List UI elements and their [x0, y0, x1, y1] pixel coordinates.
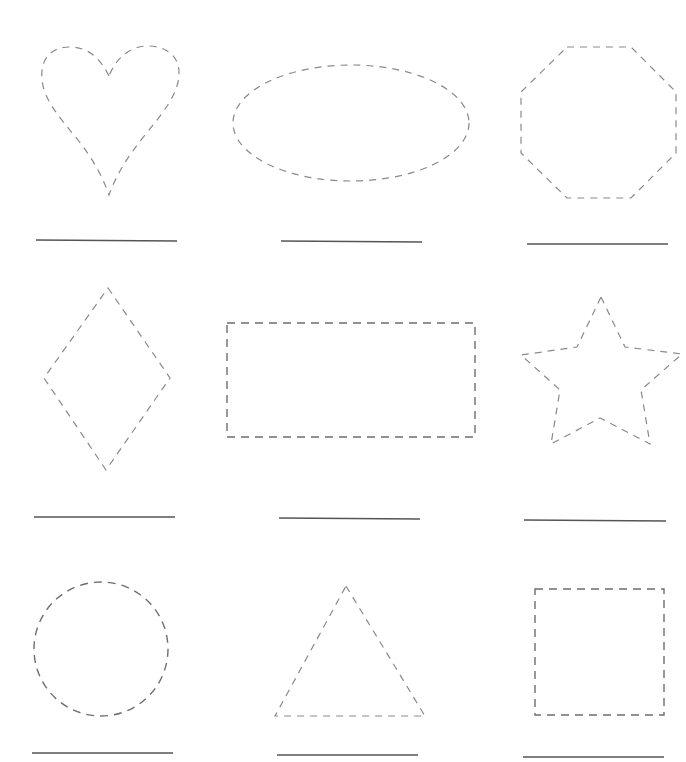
triangle-cell — [275, 586, 425, 755]
star-shape — [521, 297, 682, 444]
oval-answer-line[interactable] — [281, 241, 422, 242]
rectangle-cell — [227, 323, 475, 519]
heart-shape — [42, 46, 179, 195]
triangle-shape — [275, 586, 425, 716]
oval-cell — [233, 65, 469, 242]
diamond-shape — [44, 288, 170, 470]
circle-shape — [34, 582, 168, 716]
heart-answer-line[interactable] — [36, 240, 177, 241]
rectangle-answer-line[interactable] — [279, 518, 420, 519]
rectangle-shape — [227, 323, 475, 437]
diamond-cell — [34, 288, 175, 517]
octagon-cell — [521, 47, 676, 244]
square-cell — [523, 589, 664, 757]
square-shape — [535, 589, 664, 715]
star-cell — [521, 297, 682, 521]
circle-cell — [32, 582, 173, 753]
octagon-shape — [521, 47, 676, 198]
tracing-worksheet — [0, 0, 686, 762]
oval-shape — [233, 65, 469, 181]
heart-cell — [36, 46, 179, 241]
star-answer-line[interactable] — [524, 520, 666, 521]
